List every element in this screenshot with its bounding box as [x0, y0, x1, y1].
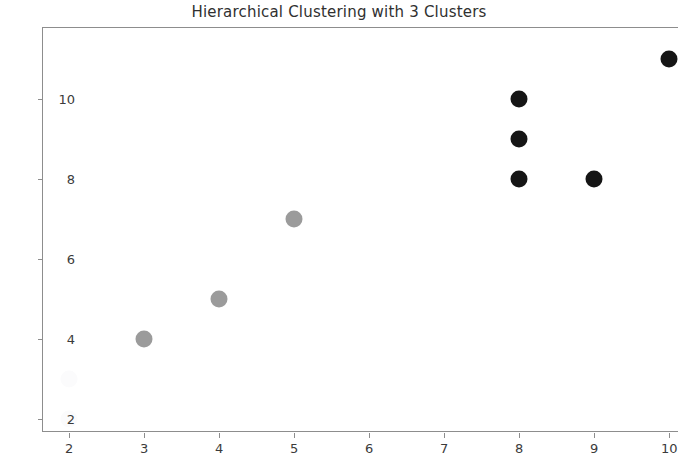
x-tick-label: 5: [290, 441, 298, 456]
scatter-plot-figure: Hierarchical Clustering with 3 Clusters …: [0, 0, 678, 468]
x-tick-label: 10: [661, 441, 678, 456]
x-tick-mark: [669, 433, 670, 438]
data-point: [661, 50, 678, 67]
x-tick-label: 2: [65, 441, 73, 456]
y-tick-label: 2: [67, 411, 75, 426]
data-point: [511, 90, 528, 107]
y-tick-mark: [38, 99, 43, 100]
data-point: [211, 290, 228, 307]
x-tick-mark: [219, 433, 220, 438]
data-point: [586, 170, 603, 187]
x-tick-mark: [594, 433, 595, 438]
y-axis-ticks: 246810: [43, 28, 85, 433]
y-tick-label: 4: [67, 331, 75, 346]
data-point: [136, 330, 153, 347]
x-tick-label: 7: [440, 441, 448, 456]
x-tick-mark: [444, 433, 445, 438]
chart-title: Hierarchical Clustering with 3 Clusters: [0, 3, 678, 21]
data-point: [511, 170, 528, 187]
x-tick-label: 6: [365, 441, 373, 456]
y-tick-mark: [38, 259, 43, 260]
x-tick-mark: [69, 433, 70, 438]
x-tick-label: 3: [140, 441, 148, 456]
x-tick-label: 8: [515, 441, 523, 456]
y-tick-mark: [38, 339, 43, 340]
y-tick-label: 8: [67, 171, 75, 186]
y-tick-label: 6: [67, 251, 75, 266]
x-tick-mark: [519, 433, 520, 438]
y-tick-mark: [38, 179, 43, 180]
y-tick-label: 10: [58, 91, 75, 106]
x-tick-mark: [144, 433, 145, 438]
x-tick-label: 4: [215, 441, 223, 456]
data-point: [511, 130, 528, 147]
plot-area: 2345678910 246810: [42, 27, 678, 432]
x-tick-label: 9: [590, 441, 598, 456]
data-point: [286, 210, 303, 227]
y-tick-mark: [38, 419, 43, 420]
x-tick-mark: [294, 433, 295, 438]
x-tick-mark: [369, 433, 370, 438]
